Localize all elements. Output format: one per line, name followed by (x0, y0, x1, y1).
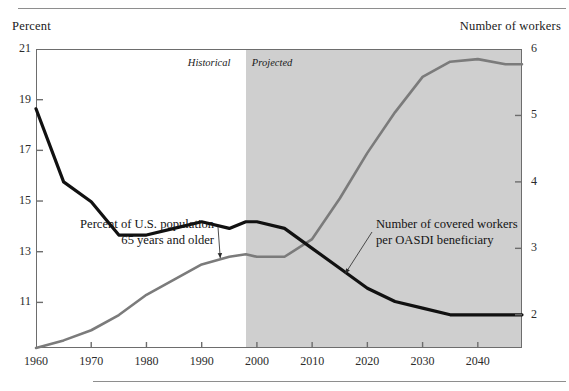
y-axis-tick-label: 13 (13, 244, 31, 259)
x-axis-tick-label: 1970 (79, 354, 103, 369)
chart-plot-area: Historical Projected Percent of U.S. pop… (36, 49, 522, 348)
x-axis-tick-label: 1990 (190, 354, 214, 369)
annotation-workers-per-beneficiary: Number of covered workers per OASDI bene… (376, 217, 556, 248)
x-axis-tick-label: 2040 (466, 354, 490, 369)
x-axis-tick-label: 2030 (411, 354, 435, 369)
y-axis-tick-label: 21 (13, 41, 31, 56)
y2-axis-tick-label: 2 (531, 307, 537, 322)
y-axis-tick-label: 17 (13, 142, 31, 157)
x-axis-tick-label: 1960 (24, 354, 48, 369)
top-divider-rule (18, 8, 566, 9)
right-axis-title: Number of workers (460, 19, 561, 34)
bottom-divider-rule (93, 381, 566, 382)
x-axis-tick-label: 2010 (300, 354, 324, 369)
y2-axis-tick-label: 3 (531, 240, 537, 255)
annotation-percent-65-older: Percent of U.S. population 65 years and … (46, 217, 214, 248)
annotation-leaders (36, 49, 522, 348)
y-axis-tick-label: 15 (13, 193, 31, 208)
y-axis-tick-label: 11 (13, 294, 31, 309)
x-axis-tick-label: 2020 (355, 354, 379, 369)
x-axis-tick-label: 1980 (134, 354, 158, 369)
y-axis-tick-label: 19 (13, 92, 31, 107)
y2-axis-tick-label: 6 (531, 41, 537, 56)
x-axis-tick-label: 2000 (245, 354, 269, 369)
y2-axis-tick-label: 5 (531, 107, 537, 122)
y2-axis-tick-label: 4 (531, 174, 537, 189)
left-axis-title: Percent (12, 19, 51, 34)
